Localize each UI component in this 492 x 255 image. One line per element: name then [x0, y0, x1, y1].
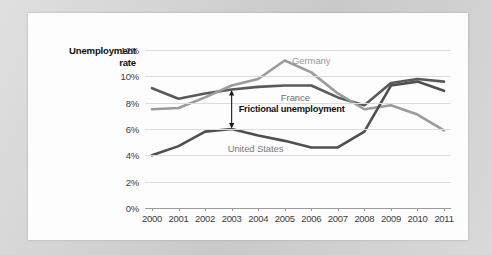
y-tick-label-2%: 2%	[126, 176, 139, 187]
x-tick-label-2004: 2004	[248, 213, 268, 224]
x-tick-label-2007: 2007	[328, 213, 348, 224]
x-tick-2007	[338, 208, 339, 211]
x-tick-2005	[285, 208, 286, 211]
y-tick-label-6%: 6%	[126, 124, 139, 135]
plot-area: 0%2%4%6%8%10%12% 20002001200220032004200…	[145, 50, 451, 208]
x-tick-label-2003: 2003	[222, 213, 242, 224]
x-tick-2011	[444, 208, 445, 211]
series-label-united-states: United States	[228, 142, 284, 153]
x-tick-label-2008: 2008	[354, 213, 374, 224]
x-tick-label-2009: 2009	[381, 213, 401, 224]
x-tick-2010	[417, 208, 418, 211]
x-tick-2006	[311, 208, 312, 211]
x-tick-label-2001: 2001	[169, 213, 189, 224]
annotation-arrow	[145, 50, 451, 208]
gridline-0%	[145, 208, 451, 209]
x-tick-label-2002: 2002	[195, 213, 215, 224]
x-tick-label-2005: 2005	[275, 213, 295, 224]
x-tick-label-2011: 2011	[434, 213, 453, 224]
series-label-france: France	[281, 91, 310, 102]
annotation-arrow-head-top	[229, 90, 234, 96]
x-tick-2002	[205, 208, 206, 211]
y-tick-label-0%: 0%	[126, 203, 139, 214]
y-tick-label-10%: 10%	[121, 71, 139, 82]
x-tick-2000	[152, 208, 153, 211]
annotation-label: Frictional unemployment	[239, 104, 345, 114]
x-tick-2009	[391, 208, 392, 211]
series-label-germany: Germany	[292, 55, 330, 66]
x-tick-label-2006: 2006	[301, 213, 321, 224]
y-tick-label-8%: 8%	[126, 97, 139, 108]
x-tick-label-2010: 2010	[407, 213, 427, 224]
x-tick-2004	[258, 208, 259, 211]
x-tick-2001	[179, 208, 180, 211]
y-tick-label-12%: 12%	[121, 45, 139, 56]
y-tick-label-4%: 4%	[126, 150, 139, 161]
unemployment-rate-line-chart: Unemployment rate 0%2%4%6%8%10%12% 20002…	[28, 13, 468, 240]
x-tick-label-2000: 2000	[142, 213, 162, 224]
x-tick-2008	[364, 208, 365, 211]
y-axis-title-line-2: rate	[46, 57, 136, 69]
annotation-arrow-head-bottom	[229, 123, 234, 129]
chart-card: Unemployment rate 0%2%4%6%8%10%12% 20002…	[28, 13, 468, 240]
x-tick-2003	[232, 208, 233, 211]
